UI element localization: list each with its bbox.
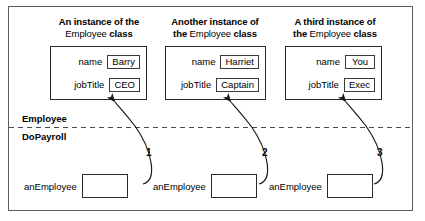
- instance-heading-1: An instance of the Employee class: [44, 16, 154, 39]
- object-box-3: name You jobTitle Exec: [285, 46, 382, 100]
- arrow-number-3: 3: [377, 147, 383, 158]
- variable-group-2: anEmployee: [153, 174, 257, 198]
- instance-heading-1-line1: An instance of the: [59, 16, 140, 27]
- instance-heading-1-class: Employee: [65, 28, 106, 39]
- instance-heading-3-class-word: class: [354, 28, 377, 39]
- object-1-field-jobtitle: jobTitle CEO: [51, 76, 146, 93]
- object-2-field-jobtitle-value: Captain: [216, 78, 259, 92]
- object-box-2: name Harriet jobTitle Captain: [165, 46, 266, 100]
- object-2-field-name: name Harriet: [166, 53, 265, 70]
- object-1-field-name-label: name: [79, 56, 103, 67]
- variable-2-box: [211, 174, 257, 198]
- instance-heading-2-line1: Another instance of: [171, 16, 258, 27]
- object-3-field-jobtitle: jobTitle Exec: [286, 76, 381, 93]
- variable-1-name: anEmployee: [24, 181, 77, 192]
- instance-heading-2-the: the: [173, 28, 187, 39]
- object-3-field-jobtitle-label: jobTitle: [309, 79, 339, 90]
- instance-heading-3: A third instance of the Employee class: [278, 16, 392, 39]
- object-box-1: name Barry jobTitle CEO: [50, 46, 147, 100]
- object-1-field-jobtitle-label: jobTitle: [74, 79, 104, 90]
- variable-group-3: anEmployee: [269, 174, 373, 198]
- object-2-field-name-value: Harriet: [220, 55, 259, 69]
- object-2-field-name-label: name: [192, 56, 216, 67]
- instance-heading-2: Another instance of the Employee class: [158, 16, 272, 39]
- object-2-field-jobtitle-label: jobTitle: [181, 79, 211, 90]
- instance-heading-1-class-word: class: [109, 28, 132, 39]
- object-2-field-jobtitle: jobTitle Captain: [166, 76, 265, 93]
- instance-heading-3-the: the: [293, 28, 307, 39]
- scope-label-dopayroll: DoPayroll: [22, 131, 66, 142]
- arrow-number-2: 2: [262, 147, 268, 158]
- object-1-field-name-value: Barry: [107, 55, 140, 69]
- object-1-field-jobtitle-value: CEO: [109, 78, 140, 92]
- instance-heading-2-class: Employee: [190, 28, 231, 39]
- scope-label-employee: Employee: [22, 113, 67, 124]
- object-1-field-name: name Barry: [51, 53, 146, 70]
- instance-heading-3-line1: A third instance of: [294, 16, 375, 27]
- instance-heading-2-class-word: class: [234, 28, 257, 39]
- variable-2-name: anEmployee: [153, 181, 206, 192]
- variable-3-box: [327, 174, 373, 198]
- variable-3-name: anEmployee: [269, 181, 322, 192]
- object-3-field-name-label: name: [316, 56, 340, 67]
- object-3-field-name: name You: [286, 53, 381, 70]
- arrow-number-1: 1: [146, 147, 152, 158]
- instance-heading-3-class: Employee: [310, 28, 351, 39]
- variable-1-box: [82, 174, 128, 198]
- object-reference-diagram: An instance of the Employee class Anothe…: [0, 0, 425, 221]
- variable-group-1: anEmployee: [24, 174, 128, 198]
- object-3-field-jobtitle-value: Exec: [344, 78, 375, 92]
- object-3-field-name-value: You: [345, 55, 375, 69]
